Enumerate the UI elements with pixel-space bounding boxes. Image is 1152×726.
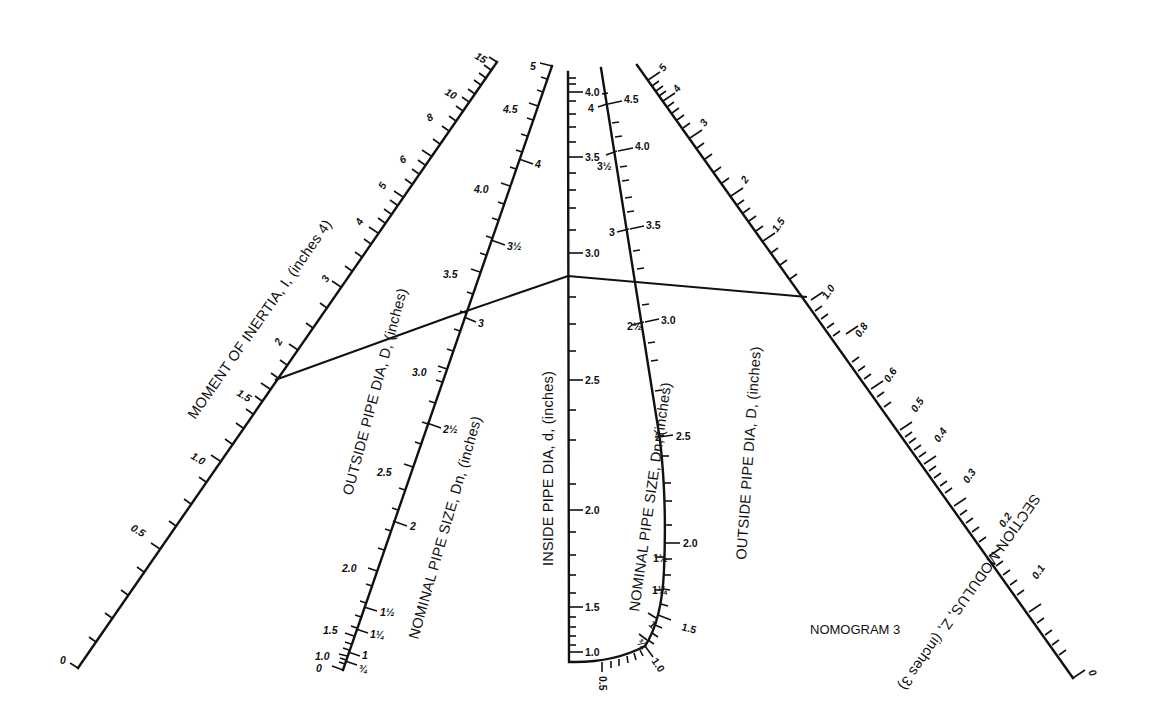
npr-title: NOMINAL PIPE SIZE, Dn, (inches) [626, 381, 674, 612]
svg-text:0: 0 [60, 654, 66, 666]
svg-text:3½: 3½ [597, 160, 612, 172]
npl-title: NOMINAL PIPE SIZE, Dn, (inches) [406, 414, 485, 641]
svg-text:4: 4 [588, 102, 594, 114]
section-modulus-scale: 0 0.1 0.2 0.3 0.4 0.5 0.6 0.8 1.0 1.5 2 … [637, 61, 1100, 693]
svg-text:4.0: 4.0 [473, 183, 489, 195]
svg-text:4.5: 4.5 [624, 93, 639, 105]
npr-tick-labels: 4 3½ 3 2½ 2 1½ 1¼ 1 ¾ [588, 102, 668, 651]
svg-text:1.0: 1.0 [189, 449, 208, 467]
npl-tick-labels: ¾ 1 1¼ 1½ 2 2½ 3 3½ 4 [359, 158, 541, 674]
svg-text:3.0: 3.0 [412, 366, 427, 378]
svg-text:3.5: 3.5 [443, 268, 458, 280]
svg-text:3.5: 3.5 [646, 219, 661, 231]
svg-text:5: 5 [656, 61, 669, 73]
svg-text:1½: 1½ [653, 552, 668, 564]
odl-minor-ticks [339, 77, 547, 664]
svg-text:3: 3 [697, 116, 710, 128]
svg-text:0.1: 0.1 [1029, 562, 1047, 581]
idd-title: INSIDE PIPE DIA, d, (inches) [540, 371, 556, 566]
svg-text:2.0: 2.0 [683, 537, 698, 549]
svg-text:4: 4 [352, 216, 366, 228]
svg-text:1.5: 1.5 [323, 624, 338, 636]
idd-tick-labels: 4.0 3.5 3.0 2.5 2.0 1.5 1.0 0.5 [585, 86, 609, 691]
sm-axis-line [637, 65, 1073, 678]
svg-text:3: 3 [478, 317, 484, 329]
svg-text:0.5: 0.5 [908, 395, 926, 414]
svg-text:4.0: 4.0 [585, 86, 600, 98]
svg-text:2½: 2½ [442, 423, 458, 435]
svg-text:8: 8 [424, 110, 435, 123]
svg-text:10: 10 [443, 85, 459, 101]
svg-text:3½: 3½ [507, 240, 522, 252]
svg-text:2: 2 [409, 520, 416, 532]
svg-text:2.5: 2.5 [676, 430, 691, 442]
svg-text:4: 4 [669, 82, 683, 95]
svg-text:3.0: 3.0 [585, 247, 600, 259]
svg-text:1.5: 1.5 [769, 215, 787, 234]
svg-text:5: 5 [530, 60, 536, 72]
svg-text:1.0: 1.0 [649, 655, 667, 674]
nomogram: 0 0.5 1.0 1.5 2 3 4 5 6 8 10 15 MOMENT O… [0, 0, 1152, 726]
svg-text:0.5: 0.5 [129, 521, 148, 539]
svg-text:1.0: 1.0 [819, 282, 837, 301]
svg-text:3: 3 [318, 273, 331, 284]
svg-text:0.4: 0.4 [931, 425, 949, 444]
odl-title: OUTSIDE PIPE DIA, D, (inches) [339, 286, 410, 497]
svg-text:0.5: 0.5 [597, 676, 609, 691]
sm-tick-labels: 0 0.1 0.2 0.3 0.4 0.5 0.6 0.8 1.0 1.5 2 … [656, 61, 1100, 678]
outside-pipe-dia-right-scale: 4.5 4.0 3.5 3.0 2.5 2.0 1.5 1.0 4 3½ 3 2… [588, 68, 764, 674]
svg-text:1½: 1½ [380, 606, 395, 618]
svg-text:2.0: 2.0 [585, 504, 600, 516]
svg-text:2: 2 [737, 173, 751, 186]
stray-mark: - [438, 364, 442, 376]
svg-text:2.5: 2.5 [585, 374, 600, 386]
svg-text:4.0: 4.0 [635, 140, 650, 152]
svg-text:1.0: 1.0 [315, 650, 330, 662]
svg-text:1¼: 1¼ [652, 584, 668, 596]
svg-text:2.5: 2.5 [376, 466, 392, 478]
svg-text:1.0: 1.0 [585, 646, 600, 658]
svg-text:0: 0 [1086, 667, 1099, 678]
svg-text:2: 2 [271, 336, 285, 348]
svg-text:0.8: 0.8 [852, 320, 870, 339]
svg-text:1.5: 1.5 [585, 601, 600, 613]
sm-ticks [648, 72, 1085, 678]
svg-text:6: 6 [397, 152, 408, 165]
svg-text:0.3: 0.3 [960, 466, 978, 485]
svg-text:15: 15 [473, 49, 489, 65]
svg-text:4.5: 4.5 [502, 103, 518, 115]
solution-index-line [275, 276, 807, 380]
svg-text:2.0: 2.0 [341, 562, 357, 574]
svg-text:5: 5 [375, 180, 388, 191]
moi-title: MOMENT OF INERTIA, I, (inches 4) [184, 216, 334, 421]
svg-text:0.6: 0.6 [881, 365, 899, 384]
svg-text:¾: ¾ [359, 662, 368, 674]
svg-text:4: 4 [534, 158, 541, 170]
svg-text:0: 0 [316, 662, 322, 674]
svg-text:1.5: 1.5 [680, 620, 697, 635]
svg-text:1.5: 1.5 [235, 386, 254, 404]
svg-text:1: 1 [362, 649, 368, 661]
svg-text:3: 3 [609, 226, 615, 238]
svg-text:2½: 2½ [627, 320, 642, 332]
svg-text:3.0: 3.0 [661, 314, 676, 326]
odr-title: OUTSIDE PIPE DIA, D, (inches) [733, 346, 764, 560]
svg-text:1¼: 1¼ [370, 628, 385, 640]
nomogram-caption: NOMOGRAM 3 [810, 622, 900, 637]
